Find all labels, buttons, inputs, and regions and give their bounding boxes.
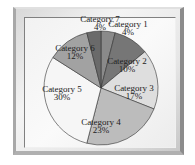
slice-label-percent: 17% <box>126 91 143 101</box>
slice-label-percent: 12% <box>67 51 84 61</box>
slice-label-percent: 4% <box>94 22 107 32</box>
slice-label-percent: 23% <box>93 125 110 135</box>
slice-label-percent: 30% <box>54 92 71 102</box>
slice-label-percent: 10% <box>119 64 136 74</box>
slice-label-percent: 4% <box>122 27 135 37</box>
pie-chart: Category 14%Category 210%Category 317%Ca… <box>0 0 195 165</box>
